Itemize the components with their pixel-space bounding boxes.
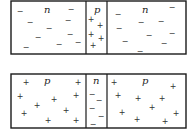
electron-minus-sign: − — [75, 38, 82, 47]
electron-minus-sign: − — [158, 17, 165, 26]
hole-plus-sign: + — [98, 34, 105, 43]
electron-minus-sign: − — [68, 5, 75, 14]
hole-plus-sign: + — [63, 106, 70, 115]
hole-plus-sign: + — [115, 91, 122, 100]
npn-junction: n p n −−−−−−−−−−+++++−−−−−−−−−− — [11, 1, 186, 56]
hole-plus-sign: + — [159, 94, 166, 103]
pnp-junction: p n p ++++++++++−−−−−++++++++++ — [11, 74, 186, 129]
electron-minus-sign: − — [89, 104, 96, 113]
hole-plus-sign: + — [90, 41, 97, 50]
hole-plus-sign: + — [17, 92, 24, 101]
npn-region-2-label: p — [94, 4, 101, 15]
electron-minus-sign: − — [161, 39, 168, 48]
hole-plus-sign: + — [149, 103, 156, 112]
electron-minus-sign: − — [17, 7, 24, 16]
hole-plus-sign: + — [75, 78, 82, 87]
hole-plus-sign: + — [51, 95, 58, 104]
electron-minus-sign: − — [89, 90, 96, 99]
hole-plus-sign: + — [88, 15, 95, 24]
pnp-region-3-label: p — [142, 75, 149, 86]
hole-plus-sign: + — [88, 30, 95, 39]
electron-minus-sign: − — [56, 40, 63, 49]
electron-minus-sign: − — [137, 47, 144, 56]
electron-minus-sign: − — [46, 24, 53, 33]
hole-plus-sign: + — [162, 117, 169, 126]
hole-plus-sign: + — [134, 115, 141, 124]
hole-plus-sign: + — [97, 21, 104, 30]
hole-plus-sign: + — [173, 109, 180, 118]
electron-minus-sign: − — [122, 37, 129, 46]
hole-plus-sign: + — [111, 78, 118, 87]
hole-plus-sign: + — [34, 101, 41, 110]
hole-plus-sign: + — [23, 78, 30, 87]
electron-minus-sign: − — [23, 43, 30, 52]
pnp-region-2-label: n — [93, 75, 99, 86]
hole-plus-sign: + — [45, 116, 52, 125]
electron-minus-sign: − — [90, 120, 97, 129]
electron-minus-sign: − — [98, 112, 105, 121]
electron-minus-sign: − — [116, 24, 123, 33]
hole-plus-sign: + — [135, 94, 142, 103]
pnp-region-1-label: p — [44, 75, 51, 86]
hole-plus-sign: + — [73, 91, 80, 100]
electron-minus-sign: − — [138, 18, 145, 27]
hole-plus-sign: + — [21, 109, 28, 118]
npn-region-1-label: n — [44, 4, 50, 15]
electron-minus-sign: − — [27, 18, 34, 27]
electron-minus-sign: − — [96, 96, 103, 105]
hole-plus-sign: + — [170, 82, 177, 91]
electron-minus-sign: − — [146, 31, 153, 40]
transistor-junction-diagram: n p n −−−−−−−−−−+++++−−−−−−−−−− p n p ++… — [0, 0, 193, 131]
electron-minus-sign: − — [169, 3, 176, 12]
electron-minus-sign: − — [35, 33, 42, 42]
electron-minus-sign: − — [169, 29, 176, 38]
npn-region-3-label: n — [142, 4, 148, 15]
electron-minus-sign: − — [65, 16, 72, 25]
hole-plus-sign: + — [73, 116, 80, 125]
electron-minus-sign: − — [115, 10, 122, 19]
electron-minus-sign: − — [67, 30, 74, 39]
hole-plus-sign: + — [119, 108, 126, 117]
